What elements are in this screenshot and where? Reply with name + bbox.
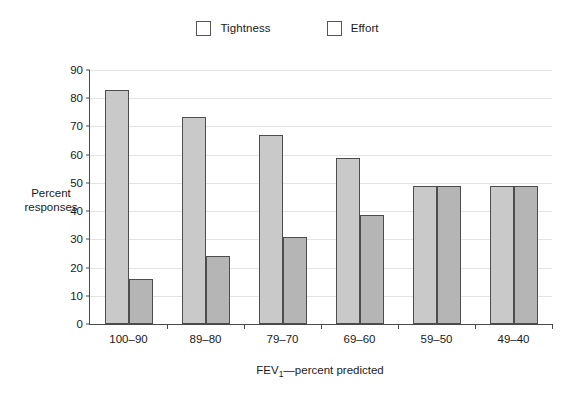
x-axis-title-main: FEV xyxy=(256,364,278,376)
legend-swatch-tightness-icon xyxy=(196,21,211,36)
x-tick-mark xyxy=(475,324,476,329)
bar-effort-59–50 xyxy=(437,186,461,324)
x-axis-title: FEV1—percent predicted xyxy=(89,364,551,376)
y-tick-label: 10 xyxy=(70,290,83,302)
bar-tightness-89–80 xyxy=(182,117,206,324)
x-axis-title-subscript: 1 xyxy=(279,369,284,379)
x-tick-label: 69–60 xyxy=(344,333,376,345)
bar-tightness-79–70 xyxy=(259,135,283,324)
bar-group xyxy=(475,70,552,324)
legend-entry-tightness: Tightness xyxy=(196,21,270,36)
y-tick-label: 50 xyxy=(70,177,83,189)
bar-series-container xyxy=(90,70,552,324)
x-tick-mark xyxy=(398,324,399,329)
plot-area: 0102030405060708090 100–9089–8079–7069–6… xyxy=(89,70,552,325)
x-tick-mark xyxy=(321,324,322,329)
bar-tightness-59–50 xyxy=(413,186,437,324)
x-tick-label: 79–70 xyxy=(267,333,299,345)
bar-group xyxy=(321,70,398,324)
bar-effort-79–70 xyxy=(283,237,307,324)
y-tick-label: 90 xyxy=(70,64,83,76)
bar-effort-49–40 xyxy=(514,186,538,324)
x-tick-mark xyxy=(244,324,245,329)
bar-group xyxy=(167,70,244,324)
y-tick-label: 60 xyxy=(70,149,83,161)
x-tick-label: 100–90 xyxy=(109,333,147,345)
legend-label-effort: Effort xyxy=(351,22,379,34)
bar-effort-100–90 xyxy=(129,279,153,324)
x-axis-ticks: 100–9089–8079–7069–6059–5049–40 xyxy=(90,324,552,354)
y-tick-label: 70 xyxy=(70,120,83,132)
y-tick-label: 40 xyxy=(70,205,83,217)
x-axis-title-rest: —percent predicted xyxy=(283,364,383,376)
x-tick-mark xyxy=(552,324,553,329)
bar-effort-69–60 xyxy=(360,215,384,324)
y-tick-label: 0 xyxy=(77,318,83,330)
bar-tightness-49–40 xyxy=(490,186,514,324)
bar-tightness-100–90 xyxy=(105,90,129,324)
x-tick-label: 49–40 xyxy=(498,333,530,345)
bar-tightness-69–60 xyxy=(336,158,360,325)
legend-swatch-effort-icon xyxy=(327,21,342,36)
bar-effort-89–80 xyxy=(206,256,230,324)
y-tick-label: 20 xyxy=(70,262,83,274)
x-tick-mark xyxy=(167,324,168,329)
y-tick-label: 30 xyxy=(70,233,83,245)
bar-group xyxy=(398,70,475,324)
legend-label-tightness: Tightness xyxy=(220,22,270,34)
x-tick-label: 59–50 xyxy=(421,333,453,345)
x-tick-label: 89–80 xyxy=(190,333,222,345)
y-tick-label: 80 xyxy=(70,92,83,104)
bar-group xyxy=(90,70,167,324)
chart-legend: Tightness Effort xyxy=(0,16,575,40)
bar-group xyxy=(244,70,321,324)
legend-entry-effort: Effort xyxy=(327,21,379,36)
